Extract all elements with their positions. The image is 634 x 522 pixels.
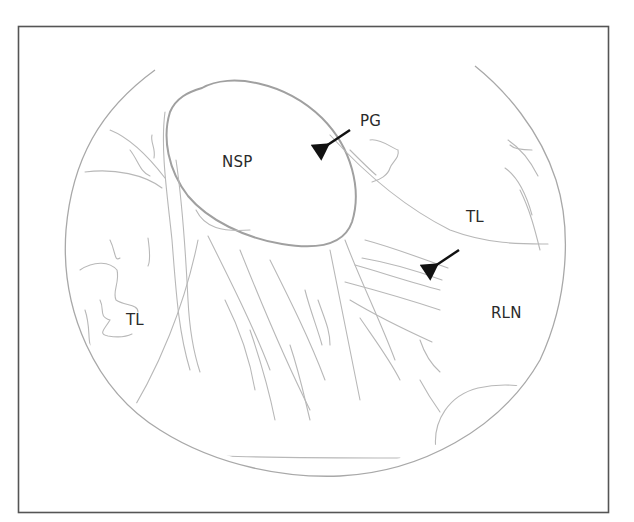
label-nsp: NSP [222,153,252,171]
label-rln: RLN [491,304,522,322]
figure-frame [19,27,609,513]
label-tl-left: TL [126,311,144,329]
figure-drawing [0,0,634,522]
arrow-rln-icon [435,250,459,266]
rln-bundle [345,258,442,342]
tl-right-boundary [330,135,548,244]
label-pg: PG [360,112,381,130]
label-tl-right: TL [466,208,484,226]
field-of-view-circle [65,66,565,476]
endoscopic-figure: NSP PG TL RLN TL [0,0,634,522]
nsp-outline [167,81,356,247]
pg-outline [370,140,398,182]
